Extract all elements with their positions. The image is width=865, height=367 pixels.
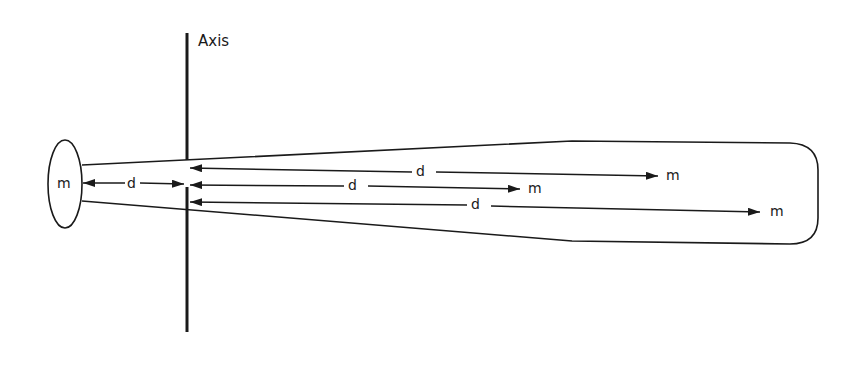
middle-distance-arrow-right: [368, 186, 520, 189]
bottom-distance-arrow-left: [190, 202, 467, 205]
mass-label-top: m: [664, 168, 682, 182]
distance-label-top: d: [414, 164, 427, 178]
top-distance-arrow-right: [436, 172, 658, 176]
mass-label-middle: m: [526, 181, 544, 195]
distance-label-left: d: [125, 176, 138, 190]
axis-label: Axis: [198, 34, 229, 49]
distance-label-middle: d: [346, 178, 359, 192]
top-distance-arrow-left: [190, 168, 412, 172]
middle-distance-arrow-left: [190, 185, 344, 186]
mass-label-left: m: [55, 176, 73, 190]
moment-of-inertia-diagram: Axis m d d m d m d m: [0, 0, 865, 367]
distance-label-bottom: d: [469, 197, 482, 211]
bat-outline: [82, 141, 818, 244]
bottom-distance-arrow-right: [491, 206, 760, 212]
mass-label-bottom: m: [768, 204, 786, 218]
left-distance-arrow-right: [140, 183, 184, 184]
